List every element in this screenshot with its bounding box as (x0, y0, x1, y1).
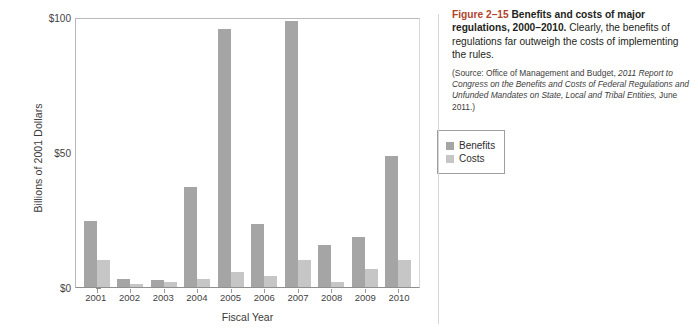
x-tick-mark (365, 289, 366, 293)
caption-divider (438, 14, 439, 324)
legend-label: Costs (459, 153, 485, 164)
x-tick-mark (97, 289, 98, 293)
chart-legend: BenefitsCosts (437, 130, 505, 174)
bar-costs-2005 (231, 272, 244, 287)
x-tick-label: 2009 (350, 292, 380, 310)
legend-item: Benefits (446, 140, 498, 151)
legend-swatch-icon (446, 155, 454, 163)
y-tick-label: $50 (31, 148, 71, 159)
caption-source-text: (Source: Office of Management and Budget… (452, 68, 692, 114)
bar-benefits-2010 (385, 156, 398, 287)
bar-benefits-2002 (117, 279, 130, 287)
bar-benefits-2001 (84, 221, 97, 287)
bars-layer (76, 19, 419, 287)
bar-costs-2010 (398, 260, 411, 287)
bar-group (283, 19, 313, 287)
y-tick-label: $100 (31, 13, 71, 24)
source-publisher: Office of Management and Budget, (484, 68, 618, 78)
bar-group (383, 19, 413, 287)
figure-number: Figure 2–15 (452, 9, 509, 20)
caption-main-text: Figure 2–15 Benefits and costs of major … (452, 8, 692, 62)
bar-group (216, 19, 246, 287)
bar-benefits-2007 (285, 21, 298, 287)
bar-group (350, 19, 380, 287)
x-tick-label: 2008 (317, 292, 347, 310)
bar-group (82, 19, 112, 287)
x-tick-mark (197, 289, 198, 293)
legend-item: Costs (446, 153, 498, 164)
bar-benefits-2005 (218, 29, 231, 287)
bar-group (182, 19, 212, 287)
bar-benefits-2009 (352, 237, 365, 287)
x-tick-label: 2005 (216, 292, 246, 310)
figure-caption: Figure 2–15 Benefits and costs of major … (452, 8, 692, 113)
bar-costs-2009 (365, 269, 378, 287)
bar-group (149, 19, 179, 287)
figure-container: Billions of 2001 Dollars $0$50$100 20012… (0, 0, 698, 334)
x-tick-label: 2010 (384, 292, 414, 310)
x-tick-mark (264, 289, 265, 293)
bar-costs-2003 (164, 282, 177, 287)
bar-costs-2002 (130, 284, 143, 287)
bar-benefits-2008 (318, 245, 331, 287)
y-tick-label: $0 (31, 283, 71, 294)
x-tick-label: 2006 (249, 292, 279, 310)
bar-group (249, 19, 279, 287)
legend-label: Benefits (459, 140, 495, 151)
x-tick-label: 2001 (81, 292, 111, 310)
x-tick-mark (298, 289, 299, 293)
bar-costs-2006 (264, 276, 277, 287)
x-tick-label: 2002 (115, 292, 145, 310)
bar-benefits-2003 (151, 280, 164, 287)
y-axis-ticks: $0$50$100 (26, 0, 71, 334)
x-tick-mark (231, 289, 232, 293)
bar-costs-2008 (331, 282, 344, 287)
x-tick-mark (164, 289, 165, 293)
x-axis-title: Fiscal Year (75, 311, 420, 323)
bar-benefits-2006 (251, 224, 264, 287)
source-prefix: (Source: (452, 68, 484, 78)
bar-group (115, 19, 145, 287)
x-tick-mark (130, 289, 131, 293)
bar-costs-2001 (97, 260, 110, 287)
bar-costs-2004 (197, 279, 210, 287)
bar-group (316, 19, 346, 287)
x-tick-label: 2003 (148, 292, 178, 310)
x-axis-ticks: 2001200220032004200520062007200820092010 (75, 292, 420, 310)
x-tick-label: 2004 (182, 292, 212, 310)
bar-benefits-2004 (184, 187, 197, 287)
x-tick-label: 2007 (283, 292, 313, 310)
x-tick-mark (331, 289, 332, 293)
chart-panel: Billions of 2001 Dollars $0$50$100 20012… (0, 0, 430, 334)
legend-swatch-icon (446, 142, 454, 150)
x-tick-mark (398, 289, 399, 293)
bar-costs-2007 (298, 260, 311, 287)
plot-area (75, 18, 420, 288)
